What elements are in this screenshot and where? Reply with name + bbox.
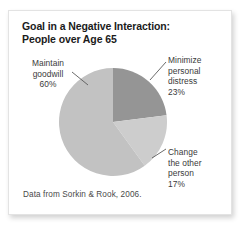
pie-slice-minimize-personal-distress	[113, 68, 167, 122]
source-note: Data from Sorkin & Rook, 2006.	[23, 190, 142, 199]
callout-distress-line-1: Minimize	[168, 55, 201, 66]
callout-goodwill-line-1: Maintain	[17, 58, 79, 69]
callout-goodwill-line-2: goodwill	[17, 69, 79, 80]
callout-change-line-1: Change	[168, 147, 202, 158]
callout-distress-value: 23%	[168, 87, 201, 98]
callout-goodwill-value: 60%	[17, 79, 79, 90]
callout-label-change-the-other-person: Change the other person 17%	[168, 147, 202, 189]
callout-distress-line-2: personal	[168, 66, 201, 77]
chart-title-line-1: Goal in a Negative Interaction:	[22, 20, 202, 33]
callout-distress-line-3: distress	[168, 76, 201, 87]
chart-title: Goal in a Negative Interaction: People o…	[22, 20, 202, 45]
figure-root: Goal in a Negative Interaction: People o…	[0, 0, 246, 227]
chart-title-line-2: People over Age 65	[22, 33, 202, 46]
callout-change-line-3: person	[168, 168, 202, 179]
callout-change-value: 17%	[168, 179, 202, 190]
callout-change-line-2: the other	[168, 158, 202, 169]
callout-label-maintain-goodwill: Maintain goodwill 60%	[17, 58, 79, 90]
callout-label-minimize-personal-distress: Minimize personal distress 23%	[168, 55, 201, 97]
